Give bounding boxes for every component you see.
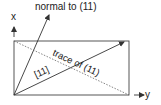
direction-arrow — [14, 42, 124, 95]
x-axis-label: x — [11, 11, 16, 22]
crystal-plane-diagram: x y normal to (11) trace of (11) [11] — [0, 0, 161, 105]
direction-label: [11] — [32, 63, 50, 79]
y-axis-label: y — [145, 89, 150, 100]
normal-arrow — [14, 15, 49, 95]
normal-label: normal to (11) — [35, 1, 97, 12]
